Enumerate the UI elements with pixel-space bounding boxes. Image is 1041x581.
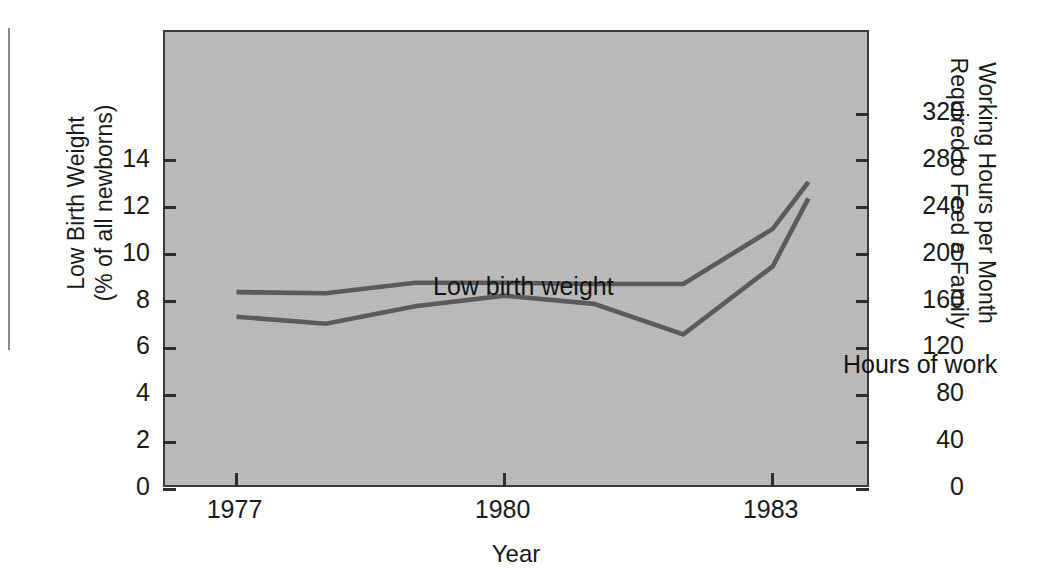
right-axis-tick bbox=[856, 159, 869, 162]
left-axis-tick-label: 0 bbox=[136, 474, 150, 499]
plot-area: Low birth weight Hours of work bbox=[163, 30, 869, 487]
left-axis-tick bbox=[163, 394, 176, 397]
annotation-hours-of-work: Hours of work bbox=[843, 350, 997, 379]
page-rule-line bbox=[8, 28, 10, 350]
data-series-layer bbox=[165, 32, 871, 489]
right-axis-tick bbox=[856, 347, 869, 350]
x-axis-tick-label: 1980 bbox=[475, 495, 531, 524]
x-axis-tick bbox=[771, 473, 774, 487]
x-axis-tick-label: 1983 bbox=[743, 495, 799, 524]
right-axis-tick bbox=[856, 394, 869, 397]
right-axis-tick-label: 40 bbox=[936, 427, 964, 452]
x-axis-tick bbox=[235, 473, 238, 487]
left-axis-tick bbox=[163, 300, 176, 303]
left-axis-title: Low Birth Weight (% of all newborns) bbox=[62, 53, 118, 353]
right-axis-tick bbox=[856, 253, 869, 256]
x-axis-title: Year bbox=[163, 540, 869, 568]
left-axis-tick-label: 6 bbox=[136, 333, 150, 358]
left-axis-tick-label: 12 bbox=[122, 193, 150, 218]
right-axis-tick bbox=[856, 441, 869, 444]
right-axis-tick bbox=[856, 300, 869, 303]
left-axis-tick-label: 4 bbox=[136, 380, 150, 405]
right-axis-tick bbox=[856, 206, 869, 209]
x-axis-tick-label: 1977 bbox=[207, 495, 263, 524]
right-axis-tick bbox=[856, 488, 869, 491]
left-axis-tick-label: 14 bbox=[122, 146, 150, 171]
series-line-hours-of-work bbox=[236, 198, 808, 334]
x-axis-tick-labels: 197719801983 bbox=[163, 495, 869, 535]
left-axis-tick bbox=[163, 488, 176, 491]
right-axis-title: Working Hours per Month Required to Feed… bbox=[945, 43, 1001, 343]
left-axis-tick-label: 8 bbox=[136, 287, 150, 312]
right-axis-tick-label: 80 bbox=[936, 380, 964, 405]
left-axis-tick bbox=[163, 159, 176, 162]
left-axis-tick bbox=[163, 253, 176, 256]
annotation-low-birth-weight: Low birth weight bbox=[433, 272, 614, 301]
chart-figure: 02468101214 04080120160200240280320 Low … bbox=[0, 0, 1041, 581]
left-axis-tick-label: 10 bbox=[122, 240, 150, 265]
left-axis-tick-label: 2 bbox=[136, 427, 150, 452]
left-axis-tick bbox=[163, 347, 176, 350]
left-axis-tick bbox=[163, 441, 176, 444]
left-axis-tick bbox=[163, 206, 176, 209]
right-axis-tick-label: 0 bbox=[950, 474, 964, 499]
right-axis-tick bbox=[856, 113, 869, 116]
x-axis-tick bbox=[503, 473, 506, 487]
